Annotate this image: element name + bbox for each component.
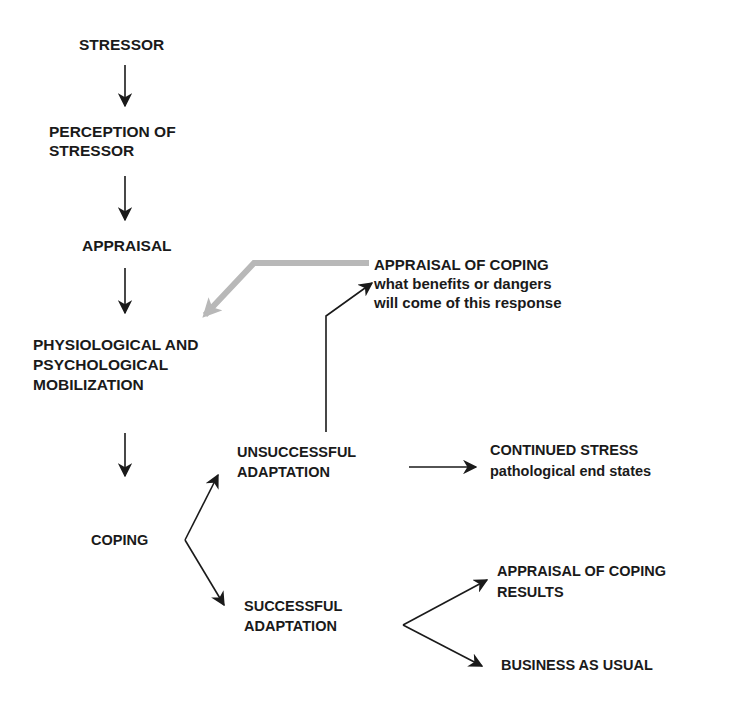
node-label: APPRAISAL OF COPING	[497, 561, 666, 582]
node-label: COPING	[91, 531, 148, 550]
node-successful-adaptation: SUCCESSFUL ADAPTATION	[244, 596, 342, 636]
node-coping: COPING	[91, 531, 148, 550]
node-appraisal: APPRAISAL	[82, 236, 172, 255]
node-label: APPRAISAL	[82, 236, 172, 255]
node-unsuccessful-adaptation: UNSUCCESSFUL ADAPTATION	[237, 442, 356, 482]
node-appraisal-of-coping-results: APPRAISAL OF COPING RESULTS	[497, 561, 666, 603]
node-sublabel: pathological end states	[490, 461, 651, 482]
node-business-as-usual: BUSINESS AS USUAL	[501, 656, 653, 675]
arrow-coping-to-successful	[185, 540, 224, 605]
node-label: UNSUCCESSFUL	[237, 442, 356, 462]
node-label: STRESSOR	[49, 141, 176, 160]
node-perception-of-stressor: PERCEPTION OF STRESSOR	[49, 122, 176, 160]
node-sublabel: will come of this response	[374, 293, 562, 312]
node-label: PHYSIOLOGICAL AND	[33, 335, 198, 355]
arrow-successful-to-appraisal-results	[403, 580, 487, 625]
node-label: PSYCHOLOGICAL	[33, 355, 198, 375]
node-stressor: STRESSOR	[79, 35, 164, 54]
feedback-arrow-appraisal-of-coping-to-mobilization	[205, 263, 369, 315]
node-label: STRESSOR	[79, 35, 164, 54]
node-label: BUSINESS AS USUAL	[501, 656, 653, 675]
node-label: SUCCESSFUL	[244, 596, 342, 616]
node-appraisal-of-coping: APPRAISAL OF COPING what benefits or dan…	[374, 255, 562, 312]
arrow-coping-to-unsuccessful	[185, 475, 218, 540]
node-continued-stress: CONTINUED STRESS pathological end states	[490, 440, 651, 482]
node-label: APPRAISAL OF COPING	[374, 255, 562, 274]
node-physiological-psychological-mobilization: PHYSIOLOGICAL AND PSYCHOLOGICAL MOBILIZA…	[33, 335, 198, 395]
arrow-unsuccessful-to-appraisal-of-coping	[326, 283, 372, 432]
node-label: RESULTS	[497, 582, 666, 603]
arrow-successful-to-business-as-usual	[403, 625, 482, 666]
node-sublabel: what benefits or dangers	[374, 274, 562, 293]
node-label: PERCEPTION OF	[49, 122, 176, 141]
node-label: MOBILIZATION	[33, 375, 198, 395]
node-label: CONTINUED STRESS	[490, 440, 651, 461]
node-label: ADAPTATION	[237, 462, 356, 482]
node-label: ADAPTATION	[244, 616, 342, 636]
